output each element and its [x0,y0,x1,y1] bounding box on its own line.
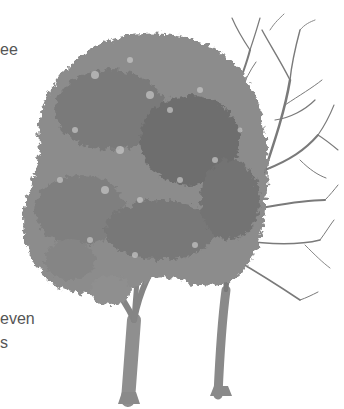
two-trees-image [0,0,344,409]
leafy-canopy [23,33,268,305]
tree-illustration: ee even s [0,0,344,409]
text-fragment-2: even [0,311,35,327]
text-fragment-1: ee [0,42,18,58]
text-fragment-3: s [0,335,8,351]
bare-trunk-base [210,386,232,396]
trunk-base [118,392,140,404]
